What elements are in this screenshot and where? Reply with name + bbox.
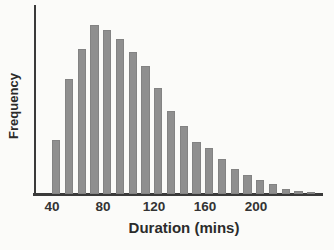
x-axis-title: Duration (mins) (129, 219, 240, 236)
x-tick-label: 200 (245, 199, 268, 214)
x-tick-label: 40 (44, 199, 59, 214)
x-tick-labels: 4080120160200 (0, 0, 334, 250)
histogram-figure: 4080120160200 Frequency Duration (mins) (0, 0, 334, 250)
x-tick-label: 80 (95, 199, 110, 214)
x-tick-label: 160 (194, 199, 217, 214)
x-tick-label: 120 (143, 199, 166, 214)
y-axis-title: Frequency (6, 73, 21, 139)
